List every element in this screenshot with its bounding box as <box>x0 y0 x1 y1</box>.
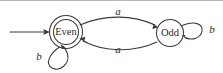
state-even-label: Even <box>55 26 77 37</box>
transition-even-self-loop-path <box>48 46 67 69</box>
state-node-even[interactable]: Even <box>50 16 83 49</box>
transition-odd-to-even[interactable]: a <box>79 37 157 55</box>
start-arrow <box>10 29 50 35</box>
transition-even-self-loop-label: b <box>36 50 42 62</box>
transition-odd-to-even-label: a <box>115 43 121 55</box>
transition-even-self-loop[interactable]: b <box>36 44 68 69</box>
transition-odd-self-loop-label: b <box>209 23 215 35</box>
transition-even-to-odd[interactable]: a <box>80 5 159 29</box>
figure-canvas: Even Odd a a b b <box>0 0 223 73</box>
transition-even-to-odd-label: a <box>115 5 121 17</box>
transition-odd-self-loop[interactable]: b <box>181 23 215 40</box>
state-node-odd[interactable]: Odd <box>157 20 184 47</box>
state-machine-diagram: Even Odd a a b b <box>0 0 223 73</box>
transition-even-to-odd-path <box>80 17 155 25</box>
state-odd-label: Odd <box>161 27 180 38</box>
